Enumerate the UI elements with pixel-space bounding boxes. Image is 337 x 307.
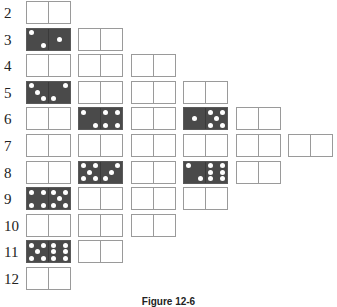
pip [208,123,213,128]
domino-divider [310,135,311,156]
domino-divider [48,241,49,262]
pip [198,176,203,181]
left-half [27,82,48,103]
row-label: 5 [4,85,22,101]
pip [51,203,56,208]
domino-filled [26,187,71,210]
right-half [49,241,70,262]
right-half [101,108,122,129]
row-label: 9 [4,191,22,207]
pip [41,96,46,101]
domino [78,214,123,237]
domino-divider [153,188,154,209]
pip [220,170,225,175]
right-half [49,29,70,50]
left-half [79,108,100,129]
domino [78,187,123,210]
row-label: 4 [4,58,22,74]
pip [220,176,225,181]
pip [81,110,86,115]
pip [103,176,108,181]
pip [63,203,68,208]
right-half [101,162,122,183]
pip [41,243,46,248]
pip [51,243,56,248]
domino-filled [183,161,228,184]
domino [131,161,176,184]
domino-divider [48,215,49,236]
domino-divider [100,29,101,50]
row-label: 10 [4,218,22,234]
pip [41,256,46,261]
domino-divider [100,241,101,262]
row-label: 2 [4,5,22,21]
domino-divider [100,215,101,236]
pip [41,203,46,208]
pip [57,196,62,201]
row-label: 12 [4,271,22,287]
domino-divider [100,108,101,129]
domino-divider [258,162,259,183]
left-half [184,108,205,129]
domino-filled [26,28,71,51]
domino [26,214,71,237]
domino-divider [100,55,101,76]
left-half [27,241,48,262]
domino [236,107,281,130]
pip [115,163,120,168]
domino-filled [26,81,71,104]
domino [131,134,176,157]
domino-divider [48,188,49,209]
pip [51,190,56,195]
domino-divider [205,135,206,156]
pip [63,243,68,248]
pip [186,163,191,168]
domino-divider [258,108,259,129]
domino-divider [205,108,206,129]
domino [78,240,123,263]
pip [29,30,34,35]
domino-filled [78,107,123,130]
domino [26,161,71,184]
pip [29,190,34,195]
pip [208,170,213,175]
pip [63,249,68,254]
domino [78,81,123,104]
pip [29,203,34,208]
domino [78,28,123,51]
pip [93,123,98,128]
domino [26,134,71,157]
pip [93,163,98,168]
domino [26,107,71,130]
domino [131,81,176,104]
pip [103,123,108,128]
pip [41,43,46,48]
domino [26,54,71,77]
domino-divider [258,135,259,156]
pip [57,37,62,42]
pip [220,163,225,168]
domino [131,54,176,77]
row-label: 6 [4,111,22,127]
row-label: 3 [4,32,22,48]
domino-divider [48,2,49,23]
domino [131,107,176,130]
domino-divider [205,188,206,209]
pip [93,176,98,181]
domino [288,134,333,157]
domino-divider [48,29,49,50]
left-half [79,162,100,183]
domino-divider [205,82,206,103]
pip [81,163,86,168]
domino-divider [100,188,101,209]
domino-divider [153,162,154,183]
domino [236,134,281,157]
pip [208,176,213,181]
domino-divider [48,55,49,76]
pip [51,96,56,101]
domino [183,134,228,157]
row-label: 8 [4,165,22,181]
pip [63,83,68,88]
domino-divider [153,135,154,156]
domino-divider [48,82,49,103]
